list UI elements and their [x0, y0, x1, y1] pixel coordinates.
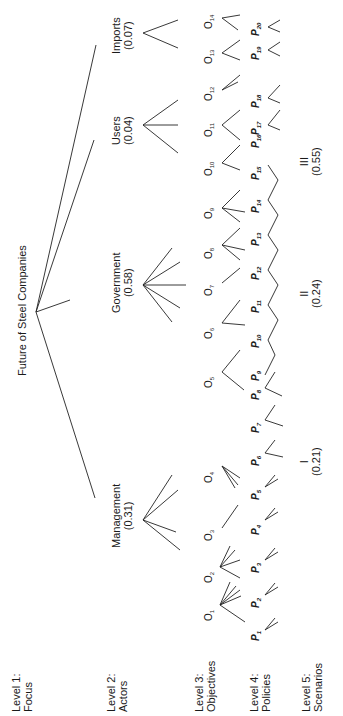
- policy-label: P7: [250, 423, 265, 433]
- policy-label: P12: [250, 267, 265, 280]
- objective-label: O9: [203, 208, 218, 219]
- actor-management: Management(0.31): [110, 484, 134, 548]
- policy-label: P2: [250, 598, 265, 608]
- objective-label: O4: [203, 472, 218, 483]
- objective-label: O5: [203, 377, 218, 388]
- level-2-label: Level 2:Actors: [105, 673, 129, 712]
- objective-label: O3: [203, 530, 218, 541]
- policy-fans: [265, 20, 283, 630]
- policy-label: P14: [250, 200, 265, 213]
- policy-label: P20: [250, 23, 265, 36]
- objective-label: O7: [203, 285, 218, 296]
- policy-label: P16: [250, 135, 265, 148]
- level-4-label: Level 4:Policies: [248, 673, 272, 712]
- policy-label: P4: [250, 525, 265, 535]
- policy-label: P5: [250, 490, 265, 500]
- policy-label: P1: [250, 631, 265, 641]
- objective-label: O8: [203, 248, 218, 259]
- policy-label: P19: [250, 47, 265, 60]
- policy-label: P6: [250, 456, 265, 466]
- objective-label: O1: [203, 610, 218, 621]
- objective-label: O2: [203, 572, 218, 583]
- level-5-label: Level 5:Scenarios: [300, 663, 324, 712]
- objective-label: O11: [203, 123, 218, 137]
- objective-label: O14: [203, 15, 218, 29]
- policy-label: P15: [250, 167, 265, 180]
- actor-government: Government(0.58): [110, 252, 134, 313]
- objective-label: O12: [203, 87, 218, 101]
- policy-label: P8: [250, 390, 265, 400]
- level-3-label: Level 3:Objectives: [193, 661, 217, 712]
- actor-imports: Imports(0.07): [110, 17, 134, 54]
- policy-label: P10: [250, 335, 265, 348]
- focus-label: Future of Steel Companies: [16, 245, 28, 376]
- objective-fans: [220, 15, 245, 622]
- scenario-3: III(0.55): [298, 147, 322, 176]
- scenario-1: I(0.21): [298, 447, 322, 476]
- objective-label: O6: [203, 328, 218, 339]
- actor-users: Users(0.04): [110, 116, 134, 145]
- connector-lines: [0, 0, 343, 716]
- policy-label: P17: [250, 122, 265, 135]
- level-1-label: Level 1:Focus: [10, 673, 34, 712]
- hierarchy-diagram: Level 1:Focus Level 2:Actors Level 3:Obj…: [0, 0, 343, 716]
- objective-label: O13: [203, 50, 218, 64]
- policy-label: P9: [250, 371, 265, 381]
- scenario-2: II(0.24): [298, 279, 322, 308]
- policy-label: P18: [250, 95, 265, 108]
- policy-label: P11: [250, 300, 265, 313]
- policy-label: P13: [250, 233, 265, 246]
- objective-label: O10: [203, 162, 218, 176]
- policy-label: P3: [250, 563, 265, 573]
